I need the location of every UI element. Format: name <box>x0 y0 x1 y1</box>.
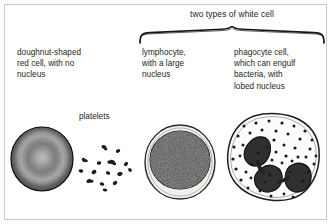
platelets-illustration <box>74 138 136 194</box>
lymphocyte-illustration <box>143 123 217 202</box>
phagocyte-illustration <box>224 112 324 204</box>
curly-brace-icon <box>138 26 326 44</box>
caption-platelets: platelets <box>79 111 110 122</box>
blood-cells-figure: two types of white cell doughnut-shaped … <box>0 0 331 224</box>
caption-lymphocyte: lymphocyte, with a large nucleus <box>142 47 232 81</box>
caption-red-cell: doughnut-shaped red cell, with no nucleu… <box>17 47 137 81</box>
brace-label: two types of white cell <box>142 9 322 20</box>
caption-phagocyte: phagocyte cell, which can engulf bacteri… <box>234 47 330 92</box>
red-blood-cell-illustration <box>10 126 74 192</box>
